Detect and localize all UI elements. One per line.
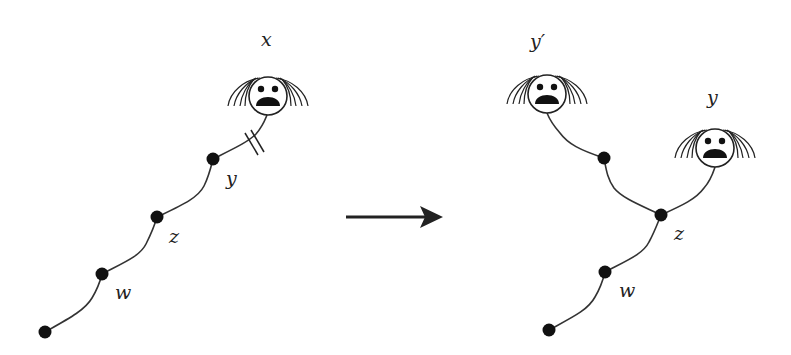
left-tree: x y z w xyxy=(39,28,309,339)
edge-bottom-w xyxy=(549,272,605,330)
edge-y-x xyxy=(213,115,267,159)
node-bottom xyxy=(39,326,52,339)
face-y-prime-icon xyxy=(507,75,587,113)
edge-z-y xyxy=(157,159,213,217)
label-x: x xyxy=(261,28,272,50)
label-w: w xyxy=(619,279,635,301)
label-w: w xyxy=(115,281,131,303)
edge-bottom-w xyxy=(45,274,102,332)
node-z xyxy=(655,209,668,222)
edge-z-branch xyxy=(604,158,661,215)
right-tree: y′ y z w xyxy=(507,30,755,337)
node-w xyxy=(599,266,612,279)
label-z: z xyxy=(168,225,180,247)
diagram-canvas: x y z w y′ y z w xyxy=(0,0,791,355)
cut-marker xyxy=(245,133,258,155)
edge-w-z xyxy=(605,215,661,272)
node-z xyxy=(151,211,164,224)
edge-w-z xyxy=(102,217,157,274)
label-y: y xyxy=(706,86,718,108)
node-branch xyxy=(598,152,611,165)
face-y-icon xyxy=(675,129,755,167)
node-w xyxy=(96,268,109,281)
edge-branch-yprime xyxy=(547,113,604,158)
label-y: y xyxy=(225,167,237,189)
face-x-icon xyxy=(228,77,308,115)
label-y-prime: y′ xyxy=(529,30,546,52)
node-y xyxy=(207,153,220,166)
edge-z-y xyxy=(661,167,715,215)
node-bottom xyxy=(543,324,556,337)
transformation-arrow xyxy=(346,206,443,228)
label-z: z xyxy=(673,222,685,244)
